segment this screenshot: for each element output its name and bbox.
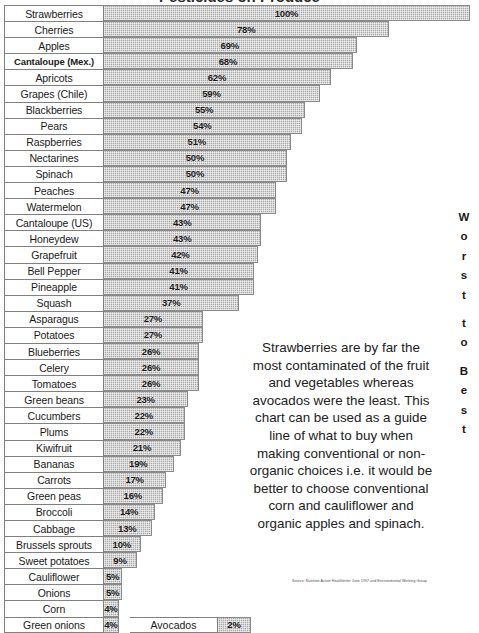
row-bar: 22%	[104, 407, 185, 423]
row-percent-label: 59%	[202, 88, 220, 99]
row-bar: 17%	[104, 472, 166, 488]
chart-row: Pears54%	[4, 118, 472, 134]
row-label: Corn	[4, 600, 104, 616]
row-percent-label: 10%	[113, 539, 131, 550]
row-bar: 13%	[104, 520, 152, 536]
row-label: Plums	[4, 423, 104, 439]
row-label: Bell Pepper	[4, 263, 104, 279]
row-percent-label: 4%	[104, 603, 117, 614]
row-bar: 62%	[104, 69, 331, 85]
axis-letter: t	[455, 286, 473, 305]
row-bar: 78%	[104, 21, 389, 37]
chart-row: Peaches47%	[4, 182, 472, 198]
row-bar: 54%	[104, 118, 302, 134]
row-label: Raspberries	[4, 134, 104, 150]
row-bar: 47%	[104, 198, 276, 214]
row-percent-label: 50%	[186, 168, 204, 179]
row-label: Brussels sprouts	[4, 536, 104, 552]
row-bar: 16%	[104, 488, 163, 504]
chart-row: Asparagus27%	[4, 311, 472, 327]
row-bar: 23%	[104, 391, 188, 407]
row-percent-label: 69%	[221, 40, 239, 51]
row-percent-label: 27%	[144, 329, 162, 340]
axis-letter: e	[455, 381, 473, 400]
axis-letter: r	[455, 247, 473, 266]
chart-row: Honeydew43%	[4, 230, 472, 246]
row-bar: 27%	[104, 327, 203, 343]
source-citation: Source: Nutrition Action Healthletter Ju…	[292, 579, 477, 584]
chart-row: Apples69%	[4, 37, 472, 53]
row-label: Peaches	[4, 182, 104, 198]
axis-letter: B	[455, 362, 473, 381]
chart-row: Pineapple41%	[4, 279, 472, 295]
row-percent-label: 22%	[135, 410, 153, 421]
row-label: Watermelon	[4, 198, 104, 214]
row-bar: 21%	[104, 440, 181, 456]
row-bar: 19%	[104, 456, 174, 472]
axis-letter: t	[455, 314, 473, 333]
row-percent-label: 37%	[162, 297, 180, 308]
row-percent-label: 43%	[173, 233, 191, 244]
row-bar: 69%	[104, 37, 357, 53]
row-label: Cauliflower	[4, 568, 104, 584]
row-bar: 55%	[104, 102, 305, 118]
row-label: Green peas	[4, 488, 104, 504]
row-bar: 14%	[104, 504, 155, 520]
axis-letter-gap	[455, 353, 473, 362]
row-bar: 50%	[104, 166, 287, 182]
row-bar: 5%	[104, 568, 122, 584]
row-bar: 50%	[104, 150, 287, 166]
row-percent-label: 13%	[118, 523, 136, 534]
chart-row: Blackberries55%	[4, 102, 472, 118]
axis-letter: s	[455, 401, 473, 420]
chart-row: Squash37%	[4, 295, 472, 311]
row-percent-label: 78%	[237, 24, 255, 35]
row-label: Onions	[4, 584, 104, 600]
row-bar: 4%	[104, 617, 119, 633]
row-bar: 9%	[104, 552, 137, 568]
row-label: Cabbage	[4, 520, 104, 536]
chart-row: Nectarines50%	[4, 150, 472, 166]
row-percent-label: 41%	[169, 265, 187, 276]
axis-letter-gap	[455, 305, 473, 314]
row-percent-label: 51%	[188, 136, 206, 147]
row-label: Carrots	[4, 472, 104, 488]
row-bar: 10%	[104, 536, 141, 552]
row-label: Sweet potatoes	[4, 552, 104, 568]
row-bar: 5%	[104, 584, 122, 600]
row-percent-label: 21%	[133, 442, 151, 453]
row-bar: 68%	[104, 53, 353, 69]
row-percent-label: 62%	[208, 72, 226, 83]
chart-row: Cherries78%	[4, 21, 472, 37]
row-label: Apricots	[4, 69, 104, 85]
avocado-percent-label: 2%	[227, 619, 241, 630]
row-label: Bananas	[4, 456, 104, 472]
row-label: Nectarines	[4, 150, 104, 166]
row-label: Cherries	[4, 21, 104, 37]
avocado-bar: 2%	[218, 617, 251, 633]
row-percent-label: 19%	[129, 458, 147, 469]
row-percent-label: 26%	[142, 378, 160, 389]
chart-row: Grapes (Chile)59%	[4, 85, 472, 101]
row-percent-label: 26%	[142, 346, 160, 357]
row-bar: 27%	[104, 311, 203, 327]
row-bar: 51%	[104, 134, 291, 150]
chart-row: Cantaloupe (Mex.)68%	[4, 53, 472, 69]
chart-row: Cantaloupe (US)43%	[4, 214, 472, 230]
row-percent-label: 4%	[104, 619, 117, 630]
row-percent-label: 55%	[195, 104, 213, 115]
row-label: Blackberries	[4, 102, 104, 118]
chart-row: Apricots62%	[4, 69, 472, 85]
row-label: Spinach	[4, 166, 104, 182]
row-label: Pears	[4, 118, 104, 134]
row-percent-label: 50%	[186, 152, 204, 163]
row-percent-label: 41%	[169, 281, 187, 292]
row-bar: 4%	[104, 600, 119, 616]
row-bar: 41%	[104, 279, 254, 295]
chart-row: Bell Pepper41%	[4, 263, 472, 279]
row-bar: 100%	[104, 5, 470, 21]
row-label: Squash	[4, 295, 104, 311]
chart-row: Green onions4%Avocados2%	[4, 617, 472, 633]
chart-row: Spinach50%	[4, 166, 472, 182]
row-percent-label: 47%	[180, 201, 198, 212]
